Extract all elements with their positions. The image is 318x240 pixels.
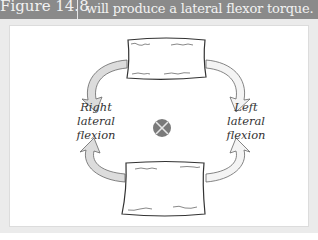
upper-vertebral-body <box>127 38 206 79</box>
label-line: lateral <box>64 114 128 128</box>
label-line: Right <box>64 100 128 114</box>
label-line: flexion <box>64 128 128 142</box>
lower-vertebral-body <box>122 162 205 217</box>
label-line: flexion <box>214 128 278 142</box>
axis-of-rotation-icon <box>153 119 171 137</box>
label-line: lateral <box>214 114 278 128</box>
left-lateral-flexion-label: Left lateral flexion <box>214 100 278 142</box>
right-lateral-flexion-label: Right lateral flexion <box>64 100 128 142</box>
arrow-lower-right-icon <box>206 138 250 182</box>
arrow-lower-left-icon <box>80 138 125 182</box>
label-line: Left <box>214 100 278 114</box>
